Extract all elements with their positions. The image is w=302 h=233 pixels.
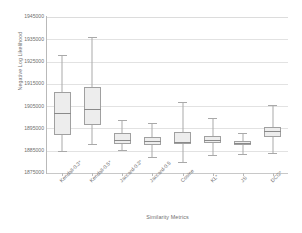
- plot-area: [47, 17, 288, 173]
- whisker-cap-lower: [238, 154, 247, 155]
- median-line: [54, 113, 71, 114]
- y-axis-tick-label: 1915000: [8, 81, 44, 86]
- whisker-upper: [62, 55, 63, 92]
- box-plot-item: [54, 17, 71, 173]
- y-axis-tick-label: 1945000: [8, 14, 44, 19]
- y-axis-tick-label: 1885000: [8, 148, 44, 153]
- box-plot-item: [114, 17, 131, 173]
- y-axis-tick-label: 1925000: [8, 59, 44, 64]
- whisker-cap-lower: [148, 157, 157, 158]
- whisker-upper: [272, 105, 273, 127]
- whisker-lower: [212, 143, 213, 155]
- median-line: [144, 141, 161, 142]
- whisker-lower: [92, 125, 93, 144]
- whisker-upper: [152, 123, 153, 137]
- whisker-cap-upper: [238, 133, 247, 134]
- whisker-cap-lower: [268, 153, 277, 154]
- y-axis-tick-label: 1875000: [8, 170, 44, 175]
- whisker-cap-lower: [58, 151, 67, 152]
- y-axis-tick-label: 1895000: [8, 126, 44, 131]
- whisker-cap-upper: [268, 105, 277, 106]
- y-axis-tick-label: 1935000: [8, 37, 44, 42]
- whisker-lower: [152, 145, 153, 157]
- median-line: [204, 140, 221, 141]
- median-line: [234, 143, 251, 144]
- whisker-cap-lower: [178, 162, 187, 163]
- whisker-upper: [182, 102, 183, 132]
- whisker-upper: [242, 133, 243, 141]
- box-iqr: [264, 127, 281, 137]
- whisker-cap-upper: [178, 102, 187, 103]
- whisker-cap-lower: [88, 144, 97, 145]
- whisker-cap-upper: [88, 37, 97, 38]
- box-plot-item: [144, 17, 161, 173]
- whisker-lower: [242, 145, 243, 154]
- box-plot-chart: Negative Log Likelihood 1945000193500019…: [0, 0, 302, 233]
- whisker-lower: [62, 135, 63, 151]
- y-axis-tick-labels: 1945000193500019250001915000190500018950…: [0, 0, 44, 233]
- whisker-cap-lower: [208, 155, 217, 156]
- box-plot-item: [174, 17, 191, 173]
- whisker-cap-upper: [208, 118, 217, 119]
- box-iqr: [114, 133, 131, 144]
- whisker-lower: [272, 137, 273, 153]
- whisker-upper: [92, 37, 93, 87]
- box-iqr: [84, 87, 101, 125]
- whisker-cap-upper: [58, 55, 67, 56]
- whisker-upper: [122, 120, 123, 133]
- x-axis-ticks: Kendall-0.3*Kendall-0.5*Jaccard-0.3*Jacc…: [47, 173, 288, 177]
- whisker-cap-upper: [118, 120, 127, 121]
- box-plot-item: [84, 17, 101, 173]
- whisker-cap-upper: [148, 123, 157, 124]
- x-axis-title: Similarity Metrics: [47, 214, 288, 220]
- box-plot-item: [264, 17, 281, 173]
- median-line: [174, 142, 191, 143]
- median-line: [84, 109, 101, 110]
- box-plot-item: [234, 17, 251, 173]
- y-axis-tick-label: 1905000: [8, 104, 44, 109]
- x-axis-tick-label: KL*: [210, 174, 220, 184]
- whisker-cap-lower: [118, 150, 127, 151]
- median-line: [264, 131, 281, 132]
- whisker-upper: [212, 118, 213, 136]
- median-line: [114, 140, 131, 141]
- x-axis-tick-label: JS: [240, 176, 248, 184]
- whisker-lower: [182, 144, 183, 162]
- box-plot-item: [204, 17, 221, 173]
